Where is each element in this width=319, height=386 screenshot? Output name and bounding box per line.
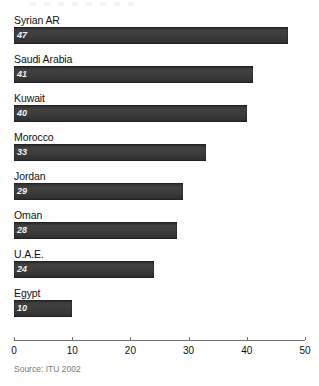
x-axis-tick-label: 20 [125, 345, 136, 357]
bar-value-label: 41 [17, 68, 27, 81]
bar: 40 [14, 105, 247, 122]
bar: 41 [14, 66, 253, 83]
bar-group: Kuwait40 [0, 92, 319, 131]
bar-group: Jordan29 [0, 170, 319, 209]
bar-group: Morocco33 [0, 131, 319, 170]
bar-track: 33 [14, 144, 305, 161]
x-axis-tick-label: 0 [11, 345, 17, 357]
bar-category-label: Syrian AR [14, 14, 60, 26]
bar-track: 29 [14, 183, 305, 200]
bar-group: Oman28 [0, 209, 319, 248]
bar-category-label: U.A.E. [14, 248, 44, 260]
bar-group: Egypt10 [0, 287, 319, 326]
bar-value-label: 10 [17, 302, 27, 315]
bar-category-label: Saudi Arabia [14, 53, 72, 65]
x-axis-tick [72, 337, 73, 340]
bar-group: Syrian AR47 [0, 14, 319, 53]
bar-chart: Syrian AR47Saudi Arabia41Kuwait40Morocco… [0, 0, 319, 386]
bar-value-label: 24 [17, 263, 27, 276]
x-axis-line [14, 340, 305, 341]
bar-value-label: 28 [17, 224, 27, 237]
bar-value-label: 29 [17, 185, 27, 198]
bar: 33 [14, 144, 206, 161]
bar-value-label: 40 [17, 107, 27, 120]
bar-track: 10 [14, 300, 305, 317]
bar-track: 47 [14, 27, 305, 44]
x-axis-tick-label: 10 [67, 345, 78, 357]
bar-category-label: Kuwait [14, 92, 45, 104]
x-axis-tick [189, 337, 190, 340]
x-axis-tick [305, 337, 306, 340]
bar-category-label: Oman [14, 209, 42, 221]
bar-group: Saudi Arabia41 [0, 53, 319, 92]
source-note: Source: ITU 2002 [14, 364, 81, 374]
bar-track: 41 [14, 66, 305, 83]
bar: 28 [14, 222, 177, 239]
bar-category-label: Egypt [14, 287, 40, 299]
x-axis [0, 340, 319, 342]
x-axis-tick [247, 337, 248, 340]
chart-plot-area: Syrian AR47Saudi Arabia41Kuwait40Morocco… [0, 14, 319, 336]
bar: 10 [14, 300, 72, 317]
bar-category-label: Morocco [14, 131, 54, 143]
x-axis-tick-label: 30 [183, 345, 194, 357]
x-axis-tick [130, 337, 131, 340]
bar-group: U.A.E.24 [0, 248, 319, 287]
bar: 29 [14, 183, 183, 200]
x-axis-tick [14, 337, 15, 340]
bar-track: 28 [14, 222, 305, 239]
bar-category-label: Jordan [14, 170, 46, 182]
bar: 47 [14, 27, 288, 44]
page-top-artifact [30, 2, 140, 6]
x-axis-tick-label: 50 [299, 345, 310, 357]
bar-track: 24 [14, 261, 305, 278]
bar-track: 40 [14, 105, 305, 122]
bar-value-label: 47 [17, 29, 27, 42]
bar: 24 [14, 261, 154, 278]
bar-value-label: 33 [17, 146, 27, 159]
x-axis-tick-label: 40 [241, 345, 252, 357]
